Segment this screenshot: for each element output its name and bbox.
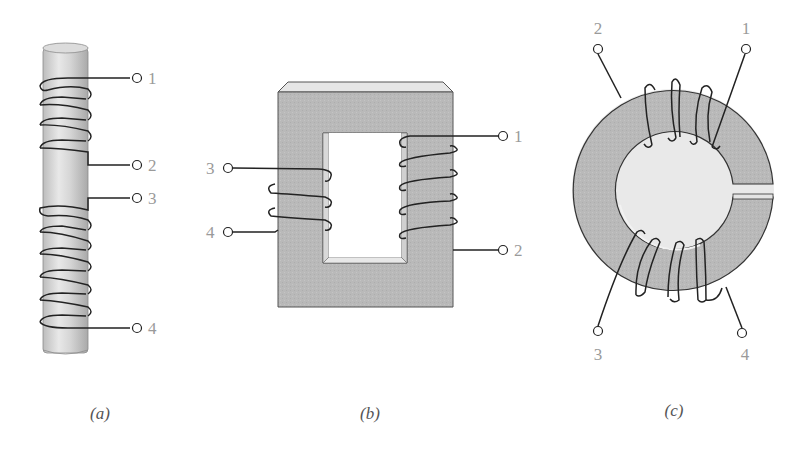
terminal-c-1: 1 — [742, 19, 751, 54]
caption-a: (a) — [90, 404, 110, 423]
terminal-c-2: 2 — [594, 19, 603, 54]
terminal-a-3: 3 — [133, 189, 157, 208]
terminal-b-4: 4 — [206, 223, 233, 242]
terminal-b-2: 2 — [499, 241, 523, 260]
terminal-b-3: 3 — [206, 159, 233, 178]
terminal-b-1: 1 — [499, 127, 523, 146]
caption-b: (b) — [360, 404, 380, 423]
terminal-label: 1 — [148, 69, 157, 88]
terminal-a-4: 4 — [133, 319, 158, 338]
panel-b: 1 2 3 4 (b) — [206, 82, 523, 423]
terminal-label: 1 — [514, 127, 523, 146]
terminal-label: 1 — [742, 19, 751, 38]
rectangular-core — [278, 82, 453, 307]
panel-c: 2 1 3 4 (c) — [572, 19, 774, 420]
terminal-c-4: 4 — [738, 329, 750, 365]
terminal-label: 2 — [514, 241, 523, 260]
terminal-label: 4 — [206, 223, 215, 242]
terminal-label: 2 — [594, 19, 603, 38]
terminal-a-2: 2 — [133, 156, 157, 175]
terminal-label: 4 — [148, 319, 157, 338]
caption-c: (c) — [665, 401, 684, 420]
terminal-c-3: 3 — [594, 327, 603, 365]
terminal-label: 3 — [148, 189, 157, 208]
terminal-label: 4 — [741, 345, 750, 364]
terminal-label: 3 — [206, 159, 215, 178]
terminal-a-1: 1 — [133, 69, 157, 88]
terminal-label: 2 — [148, 156, 157, 175]
terminal-label: 3 — [594, 345, 603, 364]
figure-canvas: 1 2 3 4 (a) — [0, 0, 812, 454]
panel-a: 1 2 3 4 (a) — [40, 43, 157, 423]
